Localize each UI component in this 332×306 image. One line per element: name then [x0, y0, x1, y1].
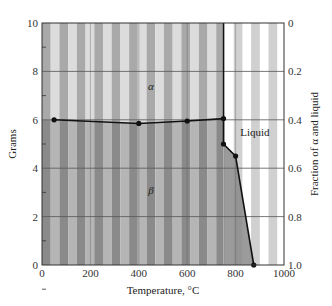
y2-axis-title: Fraction of α and liquid: [308, 91, 320, 196]
x-tick-label: 800: [227, 267, 244, 279]
alpha-stripe: [120, 23, 129, 123]
beta-stripe: [155, 122, 164, 265]
beta-stripe: [51, 120, 60, 265]
beta-stripe: [190, 121, 199, 265]
beta-stripe: [112, 122, 121, 265]
alpha-stripe: [77, 23, 86, 121]
alpha-region-label: α: [148, 80, 154, 92]
beta-stripe: [86, 121, 95, 265]
y-axis-title: Grams: [6, 129, 18, 158]
alpha-stripe: [138, 23, 147, 123]
liquid-stripe: [251, 23, 260, 265]
data-point: [136, 121, 141, 126]
data-point: [185, 118, 190, 123]
beta-stripe: [103, 122, 112, 265]
alpha-stripe: [112, 23, 121, 122]
data-point: [52, 117, 57, 122]
beta-stripe: [129, 123, 138, 265]
data-point: [221, 141, 226, 146]
alpha-stripe: [94, 23, 103, 122]
x-tick-label: 600: [179, 267, 196, 279]
alpha-stripe: [147, 23, 156, 123]
beta-stripe: [68, 121, 77, 265]
beta-stripe: [216, 119, 223, 265]
beta-stripe: [181, 121, 190, 265]
alpha-stripe: [173, 23, 182, 122]
x-axis-title: Temperature, °C: [127, 284, 200, 296]
beta-stripe: [208, 119, 217, 265]
liquid-region-label: Liquid: [240, 126, 270, 138]
liquid-stripe: [269, 23, 278, 265]
y2-tick-label: 0.6: [288, 162, 302, 174]
alpha-stripe: [86, 23, 95, 121]
beta-stripe: [94, 122, 103, 265]
x-tick-label: 400: [131, 267, 148, 279]
y-tick-label: 0: [33, 259, 39, 271]
beta-stripe: [77, 121, 86, 265]
alpha-stripe: [103, 23, 112, 122]
beta-stripe: [199, 120, 208, 265]
y-tick-label: 10: [27, 17, 39, 29]
x-tick-label: 0: [39, 267, 45, 279]
beta-stripe: [59, 120, 68, 265]
y2-tick-label: 0: [288, 17, 294, 29]
phase-fraction-chart: 02004006008001000024681000.20.40.60.81.0…: [0, 0, 332, 306]
x-tick-label: 200: [82, 267, 99, 279]
beta-region-label: β: [147, 184, 154, 196]
y2-tick-label: 0.8: [288, 211, 302, 223]
alpha-stripe: [129, 23, 138, 123]
beta-stripe: [138, 123, 147, 265]
alpha-stripe: [216, 23, 223, 119]
y2-tick-label: 0.2: [288, 65, 302, 77]
data-point: [233, 154, 238, 159]
y-tick-label: 8: [33, 65, 39, 77]
beta-stripe: [120, 123, 129, 265]
beta-stripe: [164, 122, 173, 265]
y-tick-label: 4: [33, 162, 39, 174]
beta-stripe: [173, 122, 182, 265]
y2-tick-label: 0.4: [288, 114, 302, 126]
alpha-stripe: [155, 23, 164, 122]
y-tick-label: 2: [33, 211, 39, 223]
alpha-stripe: [164, 23, 173, 122]
alpha-stripe: [181, 23, 190, 121]
y2-tick-label: 1.0: [288, 259, 302, 271]
y-tick-label: 6: [33, 114, 39, 126]
